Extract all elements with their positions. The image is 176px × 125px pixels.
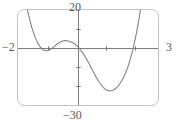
x-min-label: −2 [2,41,15,53]
graph-figure [0,0,176,125]
y-min-label: −30 [63,109,82,121]
x-max-label: 3 [166,41,172,53]
y-max-label: 20 [69,1,81,13]
plot-frame [18,10,159,106]
